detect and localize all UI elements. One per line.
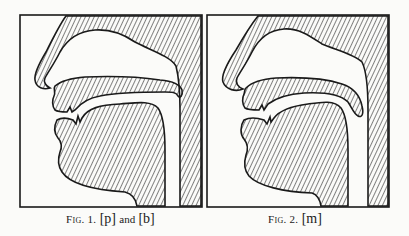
figure-1 <box>0 0 205 236</box>
phonetic-symbol-p: [p] <box>100 211 116 226</box>
phonetic-symbol-b: [b] <box>138 211 154 226</box>
figure-1-number: Fig. 1. <box>66 213 96 225</box>
conjunction-text: and <box>119 213 135 225</box>
figure-2-caption: Fig. 2. [m] <box>268 211 322 227</box>
figure-2-number: Fig. 2. <box>268 213 298 225</box>
phonetic-symbol-m: [m] <box>302 211 322 226</box>
figure-1-caption: Fig. 1. [p] and [b] <box>66 211 155 227</box>
vocal-tract-diagram-p-b <box>0 0 205 236</box>
figure-2 <box>204 0 409 236</box>
vocal-tract-diagram-m <box>204 0 409 236</box>
